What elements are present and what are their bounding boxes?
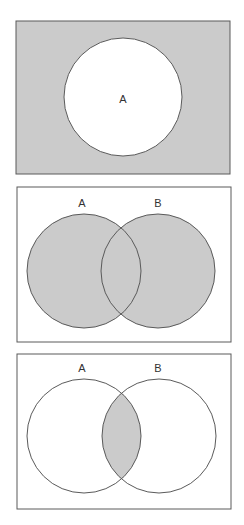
diagram-union bbox=[17, 187, 231, 342]
label-a-diagram-2: A bbox=[78, 198, 85, 209]
label-a-diagram-1: A bbox=[119, 94, 126, 105]
label-b-diagram-3: B bbox=[154, 363, 161, 374]
venn-diagrams-canvas bbox=[0, 0, 244, 525]
label-a-diagram-3: A bbox=[78, 363, 85, 374]
circle-b-2-fill bbox=[101, 214, 215, 328]
diagram-intersection bbox=[17, 354, 231, 509]
label-b-diagram-2: B bbox=[154, 198, 161, 209]
